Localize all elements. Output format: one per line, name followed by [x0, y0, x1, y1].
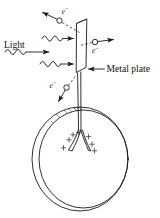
light-ray-1 — [42, 36, 74, 41]
light-label: Light — [4, 39, 25, 50]
metal-plate-label: Metal plate — [107, 63, 150, 74]
plus-charge — [61, 146, 66, 151]
electroscope-bulb — [32, 94, 134, 211]
photoelectric-effect-figure: Light — [0, 0, 160, 218]
plus-charge — [92, 149, 97, 154]
plus-charge — [86, 134, 91, 139]
plus-charge — [71, 133, 76, 138]
figure-canvas: Light — [0, 0, 160, 218]
light-ray-3 — [40, 61, 74, 66]
electron-top-left-circle — [57, 18, 62, 23]
electron-lower-left: e− — [50, 76, 77, 102]
metal-plate — [76, 19, 87, 73]
electroscope-stem — [78, 72, 81, 131]
electron-top-left: e− — [43, 5, 80, 32]
electron-lower-left-label: e− — [50, 79, 57, 89]
bulb-inner-outline — [39, 110, 128, 208]
electron-lower-left-circle — [64, 85, 69, 90]
electron-top-left-label: e− — [62, 5, 69, 15]
electron-right-label: e− — [92, 45, 99, 55]
plus-charge — [67, 138, 72, 143]
light-ray-2 — [5, 49, 49, 54]
